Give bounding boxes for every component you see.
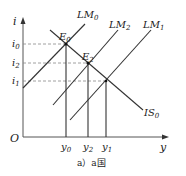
- lm2-label: LM2: [108, 19, 131, 32]
- x-axis-arrow-icon: [162, 135, 169, 140]
- y-axis-arrow-icon: [21, 17, 26, 24]
- is0-label: IS0: [143, 107, 160, 120]
- y0-label: y0: [60, 141, 72, 154]
- is-lm-diagram: i y O i0 i2 i1 y0 y2 y1 LM0 LM2 LM1 IS0 …: [0, 0, 186, 176]
- is0-curve: [50, 30, 143, 110]
- e1-point: [105, 80, 108, 83]
- i2-label: i2: [12, 57, 20, 70]
- y-axis-label: i: [13, 15, 17, 28]
- lm1-label: LM1: [142, 19, 164, 32]
- x-axis-label: y: [159, 141, 167, 154]
- y1-label: y1: [101, 141, 112, 154]
- y2-label: y2: [82, 141, 94, 154]
- lm0-label: LM0: [76, 9, 99, 22]
- caption: a）a国: [77, 158, 106, 168]
- i1-label: i1: [12, 75, 20, 88]
- i0-label: i0: [12, 38, 20, 51]
- origin-label: O: [10, 132, 19, 145]
